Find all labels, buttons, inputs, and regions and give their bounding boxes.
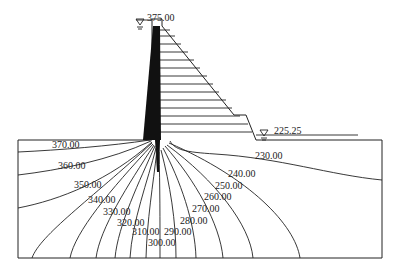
label-270: 270.00 <box>192 203 220 214</box>
label-340: 340.00 <box>88 194 116 205</box>
label-290: 290.00 <box>164 226 192 237</box>
label-310: 310.00 <box>132 226 160 237</box>
label-260: 260.00 <box>204 191 232 202</box>
upstream-level-label: 375.00 <box>147 12 175 23</box>
label-360: 360.00 <box>58 160 86 171</box>
dam-body <box>143 19 256 172</box>
equipotential-lines <box>18 140 382 258</box>
downstream-water-level: 225.25 <box>256 125 358 140</box>
seepage-diagram: 375.00 225.25 370.00 360.00 350.00 340.0… <box>0 0 393 275</box>
downstream-level-label: 225.25 <box>274 125 302 136</box>
clay-core <box>143 26 161 140</box>
label-250: 250.00 <box>215 180 243 191</box>
label-350: 350.00 <box>74 179 102 190</box>
label-230: 230.00 <box>255 150 283 161</box>
label-300: 300.00 <box>148 237 176 248</box>
label-240: 240.00 <box>228 168 256 179</box>
label-330: 330.00 <box>103 206 131 217</box>
label-280: 280.00 <box>180 215 208 226</box>
label-370: 370.00 <box>52 139 80 150</box>
